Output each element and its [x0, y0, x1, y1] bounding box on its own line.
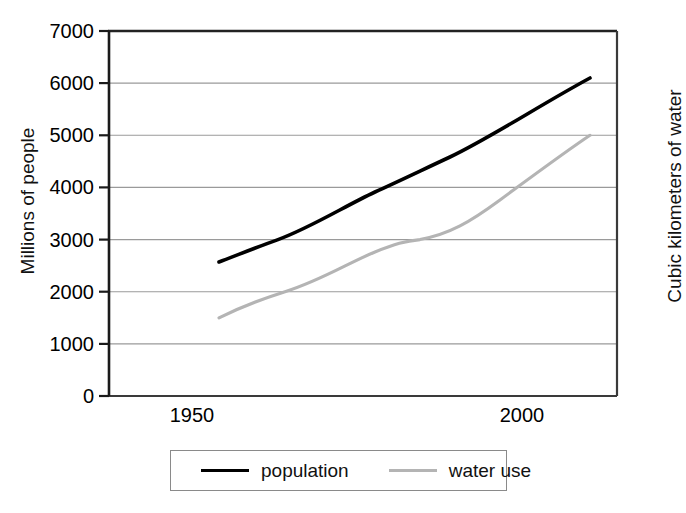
legend-swatch-water-use-icon — [389, 469, 437, 472]
y-axis-ticks — [99, 31, 109, 396]
y-axis-title-right: Cubic kilometers of water — [664, 41, 686, 351]
legend-entry-water-use: water use — [389, 460, 531, 482]
y-tick-label: 0 — [20, 386, 94, 406]
legend-label-population: population — [261, 460, 349, 482]
legend-label-water-use: water use — [449, 460, 531, 482]
legend-swatch-population-icon — [201, 469, 249, 472]
x-tick-label-1950: 1950 — [147, 405, 237, 425]
chart-legend: population water use — [170, 450, 507, 491]
series-line-population — [219, 78, 590, 262]
y-tick-label: 1000 — [20, 334, 94, 354]
y-axis-title-left: Millions of people — [17, 81, 39, 321]
y-tick-label: 7000 — [20, 21, 94, 41]
plot-frame — [108, 31, 617, 396]
legend-entry-population: population — [201, 460, 349, 482]
gridlines — [108, 83, 617, 344]
series-line-water-use — [219, 135, 590, 317]
x-tick-label-2000: 2000 — [477, 405, 567, 425]
